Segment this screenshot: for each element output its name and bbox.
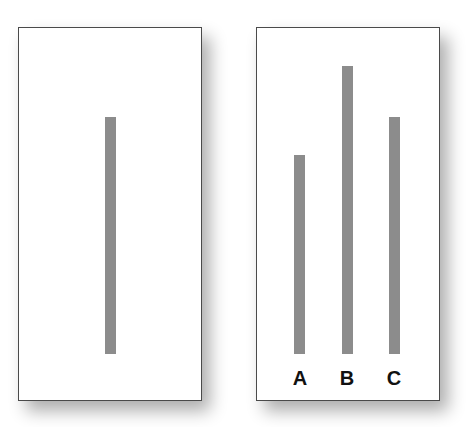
label-c: C <box>379 368 409 388</box>
standard-line <box>105 117 116 354</box>
comparison-line-b <box>342 66 353 354</box>
comparison-line-a <box>294 155 305 354</box>
label-b: B <box>332 368 362 388</box>
comparison-line-c <box>389 117 400 354</box>
standard-line-card <box>18 27 202 401</box>
comparison-lines-card: A B C <box>256 27 440 401</box>
label-a: A <box>285 368 315 388</box>
